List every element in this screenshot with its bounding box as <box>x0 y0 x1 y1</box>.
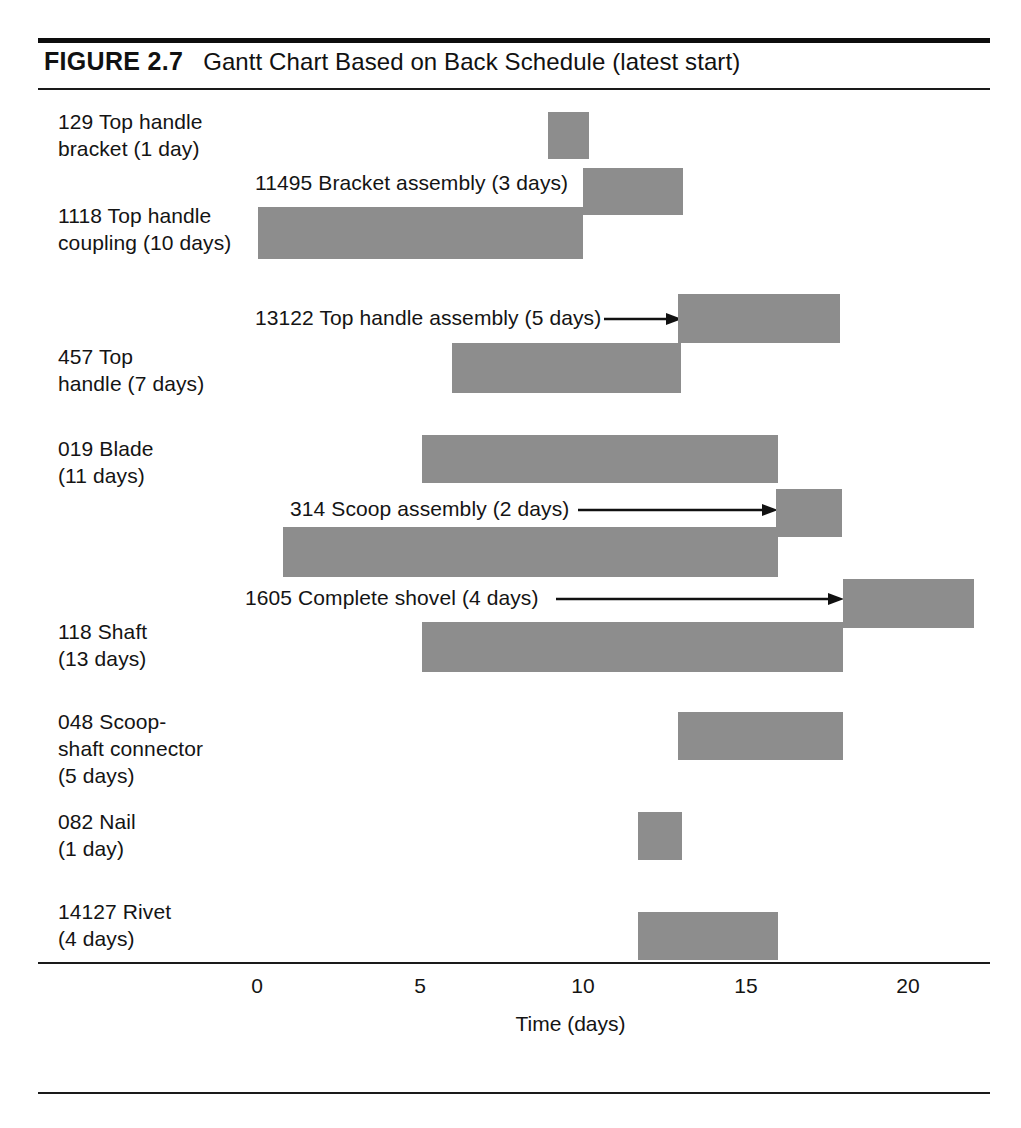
task-bar-118 <box>422 622 843 672</box>
task-label-314: 314 Scoop assembly (2 days) <box>288 494 573 524</box>
task-label-11495: 11495 Bracket assembly (3 days) <box>253 168 572 198</box>
figure-bottom-rule <box>38 1092 990 1094</box>
x-axis-title: Time (days) <box>0 1012 1021 1036</box>
x-tick-0: 0 <box>251 974 263 998</box>
x-tick-10: 10 <box>571 974 594 998</box>
figure-title: FIGURE 2.7 Gantt Chart Based on Back Sch… <box>44 47 740 85</box>
task-bar-082 <box>638 812 682 860</box>
task-label-1118: 1118 Top handle coupling (10 days) <box>58 202 268 256</box>
x-tick-5: 5 <box>414 974 426 998</box>
arrow-314 <box>578 502 778 518</box>
figure-container: FIGURE 2.7 Gantt Chart Based on Back Sch… <box>0 0 1021 1128</box>
task-bar-314 <box>776 489 842 537</box>
arrow-1605 <box>556 591 844 607</box>
task-bar-scoop <box>283 527 778 577</box>
gantt-plot-area: 129 Top handle bracket (1 day) 11495 Bra… <box>0 90 1021 962</box>
task-label-1605: 1605 Complete shovel (4 days) <box>243 583 543 613</box>
task-label-019: 019 Blade (11 days) <box>58 435 248 489</box>
figure-number: FIGURE 2.7 <box>44 47 183 76</box>
task-bar-13122 <box>678 294 840 343</box>
task-label-129: 129 Top handle bracket (1 day) <box>58 108 248 162</box>
task-label-082: 082 Nail (1 day) <box>58 808 248 862</box>
task-bar-048 <box>678 712 843 760</box>
task-label-13122: 13122 Top handle assembly (5 days) <box>253 303 605 333</box>
x-tick-20: 20 <box>896 974 919 998</box>
task-label-118: 118 Shaft (13 days) <box>58 618 248 672</box>
x-axis: 0 5 10 15 20 Time (days) <box>0 962 1021 1052</box>
task-bar-11495 <box>583 168 683 215</box>
task-bar-1118 <box>258 207 583 259</box>
task-label-048: 048 Scoop- shaft connector (5 days) <box>58 708 268 789</box>
task-label-14127: 14127 Rivet (4 days) <box>58 898 248 952</box>
task-bar-1605 <box>843 579 974 628</box>
task-label-457: 457 Top handle (7 days) <box>58 343 248 397</box>
figure-top-rule <box>38 38 990 43</box>
task-bar-14127 <box>638 912 778 960</box>
task-bar-457 <box>452 343 681 393</box>
task-bar-129 <box>548 112 589 159</box>
task-bar-019 <box>422 435 778 483</box>
x-tick-15: 15 <box>734 974 757 998</box>
arrow-13122 <box>604 311 682 327</box>
figure-caption: Gantt Chart Based on Back Schedule (late… <box>203 48 740 76</box>
